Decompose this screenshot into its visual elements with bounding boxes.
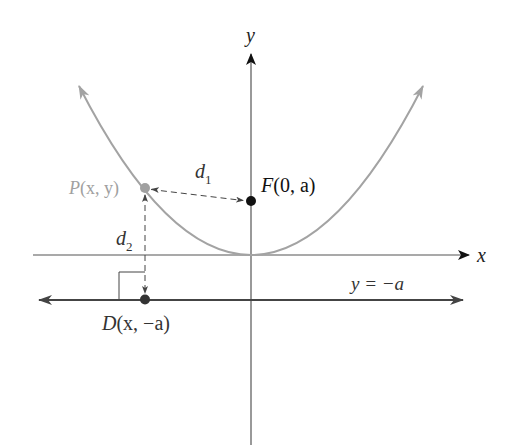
point-f-coords: (0, a) — [273, 174, 315, 197]
d2-label: d2 — [116, 227, 133, 254]
right-angle-marker — [119, 272, 145, 300]
d1-subscript: 1 — [205, 172, 212, 187]
point-d — [140, 295, 150, 305]
point-d-coords: (x, −a) — [116, 312, 169, 335]
point-p-coords: (x, y) — [80, 178, 119, 199]
parabola-left — [79, 86, 251, 255]
point-p — [140, 183, 150, 193]
point-d-name: D — [101, 312, 117, 334]
point-p-label: P(x, y) — [68, 178, 119, 199]
parabola-diagram: y x P(x, y) F(0, a) D(x, −a) d1 d2 y = −… — [0, 0, 515, 445]
point-d-label: D(x, −a) — [101, 312, 170, 335]
d1-segment — [151, 190, 243, 201]
x-axis-label: x — [476, 244, 486, 266]
d1-label: d1 — [195, 160, 212, 187]
d2-subscript: 2 — [126, 239, 133, 254]
point-f-label: F(0, a) — [260, 174, 315, 197]
point-p-name: P — [68, 178, 80, 198]
point-f-name: F — [260, 174, 274, 196]
point-f — [246, 196, 256, 206]
directrix-label: y = −a — [349, 273, 404, 294]
parabola-right — [251, 86, 423, 255]
y-axis-label: y — [244, 24, 255, 47]
